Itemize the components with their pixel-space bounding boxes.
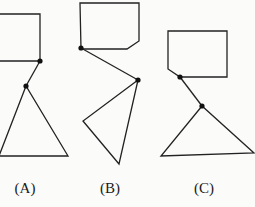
figure-c [161, 31, 254, 156]
head-polygon [0, 14, 40, 61]
diagram-canvas [0, 0, 255, 207]
connector-line [26, 61, 40, 86]
joint-dot-icon [199, 103, 204, 108]
body-triangle [83, 80, 138, 164]
joint-dot-icon [23, 83, 28, 88]
connector-line [81, 48, 138, 80]
figure-b-label: (B) [100, 180, 120, 197]
body-triangle [0, 86, 68, 156]
joint-dot-icon [37, 58, 42, 63]
figure-a [0, 14, 68, 156]
connector-line [180, 77, 202, 106]
figure-c-label: (C) [194, 180, 214, 197]
joint-dot-icon [177, 74, 182, 79]
figure-a-label: (A) [15, 180, 36, 197]
body-triangle [161, 106, 254, 156]
head-polygon [168, 31, 227, 77]
joint-dot-icon [78, 45, 83, 50]
head-polygon [80, 3, 139, 49]
figure-b [78, 3, 140, 164]
joint-dot-icon [135, 77, 140, 82]
